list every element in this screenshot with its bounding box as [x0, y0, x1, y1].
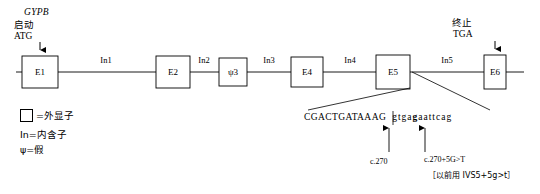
- start-codon-label: ATG: [14, 32, 32, 42]
- sequence-intron-part-a: gtga: [392, 112, 412, 122]
- annotation-label-c270plus5: c.270+5G>T: [424, 155, 465, 164]
- annotation-label-c270: c.270: [370, 157, 388, 166]
- gene-name-label: GYPB: [24, 8, 49, 18]
- sequence-exon-part: CGACTGATAAAG: [304, 112, 386, 122]
- annotation-legacy-note: ［以前用 IVS5+5g>t］: [428, 169, 515, 180]
- exon-label-e1: E1: [35, 67, 45, 77]
- exon-box-e4: E4: [291, 57, 323, 87]
- intron-label-in3: In3: [263, 55, 274, 65]
- exon-label-e6: E6: [490, 67, 500, 77]
- exon-label-e2: E2: [168, 67, 178, 77]
- legend-row-intron: In=内含子: [20, 127, 74, 141]
- legend-intron-text: In=内含子: [20, 127, 67, 141]
- exon-label-psi3: ψ3: [228, 67, 239, 77]
- exon-box-e1: E1: [22, 56, 58, 88]
- exon-box-e6: E6: [484, 55, 506, 89]
- intron-label-in2: In2: [198, 55, 209, 65]
- exon-swatch-icon: [20, 109, 33, 122]
- exon-label-e5: E5: [388, 67, 398, 77]
- legend-pseudo-text: ψ=假: [20, 142, 44, 156]
- legend-row-exon: =外显子: [20, 108, 74, 122]
- stop-label: 终止: [452, 18, 472, 28]
- sequence-callout: CGACTGATAAAGgtgagaattcag: [304, 112, 452, 122]
- start-label: 启动: [14, 20, 34, 30]
- sequence-intron-part-b: aattcag: [418, 112, 452, 122]
- exon-box-e5: E5: [376, 55, 410, 89]
- exon-box-psi3: ψ3: [219, 58, 247, 86]
- legend: =外显子 In=内含子 ψ=假: [20, 108, 74, 156]
- exon-label-e4: E4: [302, 67, 312, 77]
- intron-label-in1: In1: [100, 55, 111, 65]
- intron-label-in4: In4: [344, 55, 356, 65]
- figure-canvas: E1 E2 ψ3 E4 E5 E6 In1 In2 In3 In4 In5: [0, 0, 540, 194]
- stop-codon-label: TGA: [453, 30, 473, 40]
- legend-row-pseudo: ψ=假: [20, 142, 74, 156]
- intron-label-in5: In5: [441, 55, 452, 65]
- legend-exon-text: =外显子: [36, 108, 74, 122]
- exon-box-e2: E2: [156, 56, 190, 88]
